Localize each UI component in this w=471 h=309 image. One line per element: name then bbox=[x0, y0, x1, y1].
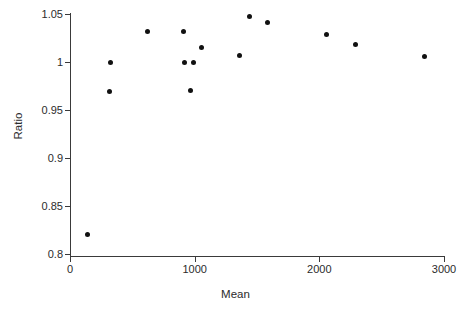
y-axis-title: Ratio bbox=[12, 96, 24, 156]
x-tick-mark bbox=[70, 257, 71, 262]
y-tick-label: 0.8 bbox=[48, 249, 63, 260]
data-point bbox=[188, 88, 193, 93]
x-tick-label: 1000 bbox=[182, 264, 206, 275]
plot-area: 0.80.850.90.9511.05 0100020003000 bbox=[0, 0, 471, 309]
data-point bbox=[353, 42, 358, 47]
data-point bbox=[181, 29, 186, 34]
data-point bbox=[107, 89, 112, 94]
y-tick-label: 1.05 bbox=[42, 9, 63, 20]
y-tick-mark bbox=[65, 62, 70, 63]
data-point bbox=[324, 32, 329, 37]
y-tick-label: 0.85 bbox=[42, 201, 63, 212]
x-tick-mark bbox=[444, 257, 445, 262]
x-tick-label: 0 bbox=[67, 264, 73, 275]
data-point bbox=[247, 14, 252, 19]
data-point bbox=[422, 54, 427, 59]
y-tick-mark bbox=[65, 14, 70, 15]
x-tick-label: 2000 bbox=[307, 264, 331, 275]
y-tick-label: 0.9 bbox=[48, 153, 63, 164]
data-point bbox=[108, 60, 113, 65]
y-tick-mark bbox=[65, 254, 70, 255]
data-point bbox=[85, 232, 90, 237]
y-tick-mark bbox=[65, 206, 70, 207]
y-tick-mark bbox=[65, 158, 70, 159]
data-point bbox=[182, 60, 187, 65]
data-point bbox=[191, 60, 196, 65]
y-tick-label: 0.95 bbox=[42, 105, 63, 116]
data-point bbox=[237, 53, 242, 58]
x-axis-line bbox=[70, 256, 445, 257]
x-axis-title: Mean bbox=[0, 288, 471, 300]
x-tick-label: 3000 bbox=[432, 264, 456, 275]
scatter-plot-figure: 0.80.850.90.9511.05 0100020003000 Ratio … bbox=[0, 0, 471, 309]
data-point bbox=[265, 20, 270, 25]
data-point bbox=[145, 29, 150, 34]
x-tick-mark bbox=[319, 257, 320, 262]
y-tick-label: 1 bbox=[57, 57, 63, 68]
y-axis-line bbox=[70, 13, 71, 257]
x-tick-mark bbox=[195, 257, 196, 262]
data-point bbox=[199, 45, 204, 50]
y-tick-mark bbox=[65, 110, 70, 111]
